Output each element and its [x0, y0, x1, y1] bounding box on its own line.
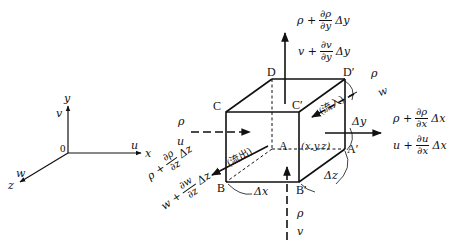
vertex-d: D — [267, 66, 276, 78]
vertex-d-prime: D′ — [343, 66, 354, 78]
vertex-a-prime: A′ — [347, 143, 358, 155]
back-inflow-rho: ρ — [371, 68, 377, 79]
point-coordinates: (x,y,z) — [301, 141, 330, 151]
right-outflow-rho-expr: ρ + ∂ρ∂x Δx — [393, 107, 445, 129]
delta-z-label: Δz — [324, 170, 338, 181]
vertex-b-prime: B′ — [296, 184, 307, 196]
w-velocity-label: w — [16, 168, 25, 179]
z-axis-label: z — [8, 180, 14, 191]
coordinate-axes — [20, 106, 141, 182]
x-axis-label: x — [145, 148, 151, 159]
left-inflow-rho: ρ — [178, 116, 184, 127]
u-velocity-label: u — [131, 140, 138, 151]
vertex-b: B — [217, 182, 225, 194]
right-outflow-u-expr: u + ∂u∂x Δx — [393, 134, 447, 156]
diagram-canvas — [0, 0, 457, 242]
v-velocity-label: v — [56, 108, 62, 119]
vertex-c-prime: C′ — [292, 99, 303, 111]
bottom-inflow-rho: ρ — [297, 208, 303, 219]
top-outflow-rho-expr: ρ + ∂ρ∂y Δy — [297, 9, 349, 31]
origin-label: 0 — [60, 143, 66, 154]
z-axis-line — [20, 153, 68, 182]
y-axis-label: y — [64, 93, 70, 104]
vertex-a: A — [279, 140, 288, 152]
bottom-inflow-v: v — [297, 226, 303, 237]
top-outflow-v-expr: v + ∂v∂y Δy — [298, 40, 350, 62]
vertex-c: C — [213, 100, 221, 112]
delta-y-label: Δy — [352, 116, 366, 127]
delta-x-label: Δx — [254, 186, 268, 197]
